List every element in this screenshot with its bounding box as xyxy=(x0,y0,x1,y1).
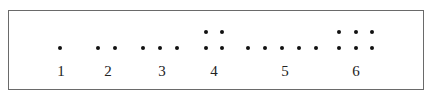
dot xyxy=(337,46,341,50)
dot xyxy=(175,46,179,50)
dot xyxy=(113,46,117,50)
dot xyxy=(58,46,62,50)
group-label: 3 xyxy=(152,63,172,80)
dot xyxy=(314,46,318,50)
group-label: 2 xyxy=(98,63,118,80)
group-label: 4 xyxy=(204,63,224,80)
dot xyxy=(96,46,100,50)
dot xyxy=(204,46,208,50)
dot xyxy=(280,46,284,50)
group-label: 1 xyxy=(51,63,71,80)
dot xyxy=(220,30,224,34)
dot xyxy=(297,46,301,50)
dot xyxy=(141,46,145,50)
dot xyxy=(246,46,250,50)
dot xyxy=(370,46,374,50)
dot xyxy=(158,46,162,50)
group-label: 5 xyxy=(275,63,295,80)
dot xyxy=(337,30,341,34)
dot xyxy=(204,30,208,34)
group-label: 6 xyxy=(346,63,366,80)
dot xyxy=(370,30,374,34)
dot xyxy=(220,46,224,50)
dot xyxy=(263,46,267,50)
dot xyxy=(354,46,358,50)
dot xyxy=(354,30,358,34)
